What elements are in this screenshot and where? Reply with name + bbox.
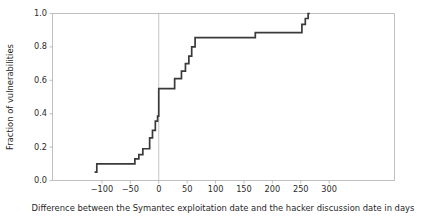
x-tick-label: 0 [156,184,161,194]
x-tick-labels: −100−50050100150200250300 [91,184,337,194]
figure-canvas: −100−50050100150200250300 0.00.20.40.60.… [0,0,439,220]
ecdf-step-line [95,14,310,173]
y-tick-label: 0.0 [34,175,47,185]
x-tick-marks [102,181,329,184]
x-tick-label: 50 [182,184,192,194]
x-tick-label: 200 [265,184,281,194]
data-series-group [95,14,310,173]
y-tick-marks [50,14,53,181]
y-tick-label: 0.4 [34,108,47,118]
x-tick-label: 100 [208,184,224,194]
ecdf-chart: −100−50050100150200250300 0.00.20.40.60.… [0,0,439,220]
y-tick-label: 0.6 [34,75,47,85]
x-tick-label: 300 [321,184,337,194]
y-tick-label: 1.0 [34,8,47,18]
x-tick-label: −100 [91,184,114,194]
y-tick-label: 0.8 [34,41,47,51]
x-axis-label: Difference between the Symantec exploita… [32,203,415,213]
x-tick-label: 150 [236,184,252,194]
x-tick-label: 250 [293,184,309,194]
y-tick-labels: 0.00.20.40.60.81.0 [34,8,47,185]
y-tick-label: 0.2 [34,142,47,152]
y-axis-label: Fraction of vulnerabilities [5,44,15,150]
x-tick-label: −50 [122,184,139,194]
